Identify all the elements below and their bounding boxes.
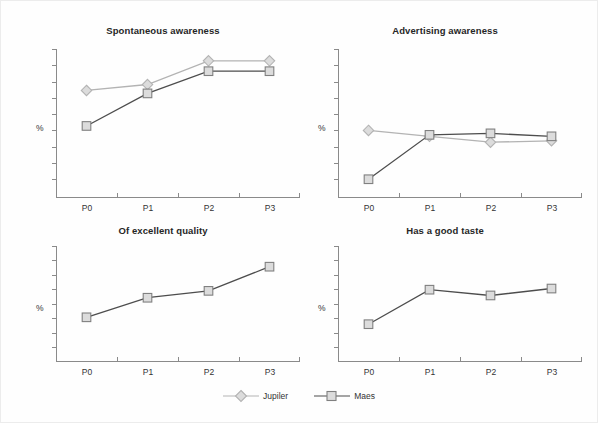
data-point-marker[interactable]: [143, 89, 152, 98]
data-point-marker[interactable]: [81, 85, 91, 95]
legend-marker-diamond-icon: [223, 389, 259, 403]
data-point-marker[interactable]: [265, 67, 274, 76]
x-axis-tick-label: P3: [265, 367, 275, 377]
data-point-marker[interactable]: [364, 175, 373, 184]
figure-canvas: Spontaneous awareness % P0P1P2P3 Adverti…: [0, 0, 598, 423]
x-axis-line: [56, 197, 300, 198]
series-line: [87, 71, 270, 126]
data-point-marker[interactable]: [425, 131, 434, 140]
series-layer: [338, 49, 582, 197]
x-axis-tick-label: P3: [265, 203, 275, 213]
panel-of-excellent-quality: Of excellent quality % P0P1P2P3: [15, 223, 311, 388]
data-point-marker[interactable]: [203, 56, 213, 66]
panel-spontaneous-awareness: Spontaneous awareness % P0P1P2P3: [15, 23, 311, 223]
data-point-marker[interactable]: [486, 129, 495, 138]
data-point-marker[interactable]: [142, 79, 152, 89]
panel-title: Spontaneous awareness: [15, 25, 311, 36]
x-axis-tick-label: P2: [204, 367, 214, 377]
panel-advertising-awareness: Advertising awareness % P0P1P2P3: [297, 23, 593, 223]
series-line: [369, 133, 552, 179]
x-axis-line: [338, 197, 582, 198]
series-line: [369, 130, 552, 142]
x-axis-tick-label: P0: [364, 203, 374, 213]
data-point-marker[interactable]: [82, 122, 91, 131]
y-axis-label: %: [318, 123, 326, 133]
series-line: [87, 61, 270, 91]
data-point-marker[interactable]: [143, 293, 152, 302]
data-point-marker[interactable]: [425, 285, 434, 294]
y-axis-label: %: [318, 303, 326, 313]
data-point-marker[interactable]: [547, 132, 556, 141]
x-axis-tick-label: P3: [547, 367, 557, 377]
series-line: [87, 267, 270, 318]
legend: Jupiler Maes: [1, 389, 597, 403]
series-layer: [56, 246, 300, 361]
plot-area: P0P1P2P3: [338, 49, 582, 197]
y-axis-label: %: [36, 303, 44, 313]
x-axis-tick-label: P2: [486, 203, 496, 213]
series-line: [369, 289, 552, 325]
data-point-marker[interactable]: [364, 320, 373, 329]
y-axis-label: %: [36, 123, 44, 133]
series-layer: [338, 246, 582, 361]
series-layer: [56, 49, 300, 197]
data-point-marker[interactable]: [264, 56, 274, 66]
data-point-marker[interactable]: [204, 287, 213, 296]
plot-area: P0P1P2P3: [338, 246, 582, 361]
x-axis-tick-label: P1: [425, 367, 435, 377]
data-point-marker[interactable]: [204, 67, 213, 76]
x-axis-tick-label: P3: [547, 203, 557, 213]
legend-marker-square-icon: [314, 389, 350, 403]
x-axis-tick-label: P2: [486, 367, 496, 377]
x-axis-tick-label: P0: [364, 367, 374, 377]
data-point-marker[interactable]: [265, 262, 274, 271]
x-axis-tick-label: P0: [82, 367, 92, 377]
legend-item-jupiler[interactable]: Jupiler: [223, 389, 288, 403]
x-axis-tick-label: P1: [143, 203, 153, 213]
x-axis-tick-label: P1: [425, 203, 435, 213]
data-point-marker[interactable]: [486, 291, 495, 300]
panel-title: Has a good taste: [297, 225, 593, 236]
x-axis-line: [56, 361, 300, 362]
x-axis-tick-label: P0: [82, 203, 92, 213]
legend-label: Jupiler: [263, 391, 288, 401]
x-axis-tick-label: P1: [143, 367, 153, 377]
panel-title: Of excellent quality: [15, 225, 311, 236]
panel-has-a-good-taste: Has a good taste % P0P1P2P3: [297, 223, 593, 388]
panel-title: Advertising awareness: [297, 25, 593, 36]
legend-item-maes[interactable]: Maes: [314, 389, 375, 403]
data-point-marker[interactable]: [82, 313, 91, 322]
data-point-marker[interactable]: [485, 137, 495, 147]
data-point-marker[interactable]: [363, 125, 373, 135]
data-point-marker[interactable]: [547, 284, 556, 293]
legend-label: Maes: [354, 391, 375, 401]
plot-area: P0P1P2P3: [56, 246, 300, 361]
plot-area: P0P1P2P3: [56, 49, 300, 197]
x-axis-line: [338, 361, 582, 362]
x-axis-tick-label: P2: [204, 203, 214, 213]
